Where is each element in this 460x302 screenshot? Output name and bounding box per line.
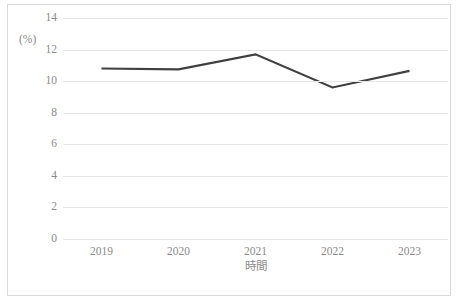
y-axis-tick-label: 6 [51,139,57,151]
x-axis-tick-label: 2021 [244,246,267,258]
y-axis-tick-label: 0 [51,233,57,245]
y-axis-tick-label: 8 [51,107,57,119]
chart-frame: (%) 時間 0246810121420192020202120222023 [7,4,451,296]
gridline [63,81,448,82]
gridline [63,50,448,51]
gridline [63,239,448,240]
y-axis-tick-label: 12 [46,44,58,56]
gridline [63,113,448,114]
y-axis-tick-label: 14 [46,12,58,24]
x-axis-title: 時間 [245,261,267,273]
gridline [63,18,448,19]
x-axis-tick-label: 2019 [90,246,113,258]
y-axis-tick-label: 2 [51,202,57,214]
x-axis-tick-label: 2022 [321,246,344,258]
y-axis-tick-label: 4 [51,170,57,182]
gridline [63,144,448,145]
x-axis-tick-label: 2023 [398,246,421,258]
y-axis-tick-label: 10 [46,75,58,87]
line-series [63,18,448,239]
x-axis-tick-label: 2020 [167,246,190,258]
gridline [63,176,448,177]
gridline [63,207,448,208]
y-axis-unit-label: (%) [19,34,36,46]
series-polyline [102,54,410,87]
plot-area: 時間 0246810121420192020202120222023 [63,18,448,239]
